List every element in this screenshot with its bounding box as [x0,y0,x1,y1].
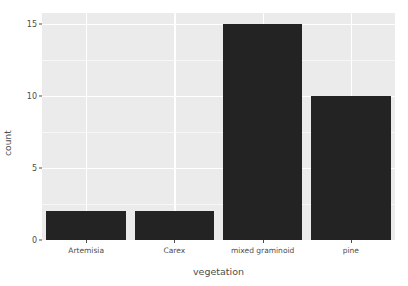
bar [135,211,214,240]
gridline-minor-y [42,60,395,61]
gridline-major-x [174,13,175,240]
y-tick-label: 10 [27,91,37,100]
x-tick-mark [351,240,352,243]
y-tick-label: 15 [27,19,37,28]
x-axis-title: vegetation [42,266,395,277]
x-tick-label: Carex [164,246,186,255]
plot-panel [42,13,395,240]
y-tick-label: 5 [32,163,37,172]
bar [46,211,125,240]
x-tick-label: Artemisia [68,246,104,255]
bar [223,24,302,240]
x-axis: ArtemisiaCarexmixed graminoidpine [42,240,395,266]
bar-chart: count 051015 ArtemisiaCarexmixed gramino… [0,0,408,286]
y-tick-label: 0 [32,236,37,245]
x-tick-label: mixed graminoid [231,246,294,255]
y-axis: 051015 [0,0,42,286]
bar [311,96,390,240]
gridline-major-y [42,24,395,25]
x-tick-mark [263,240,264,243]
x-tick-label: pine [343,246,359,255]
x-tick-mark [86,240,87,243]
gridline-major-x [86,13,87,240]
x-tick-mark [174,240,175,243]
